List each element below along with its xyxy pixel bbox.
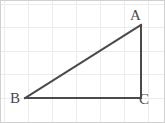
- figure-canvas: A B C: [0, 0, 165, 123]
- vertex-label-b: B: [10, 91, 20, 106]
- vertex-label-c: C: [139, 92, 149, 107]
- vertex-label-a: A: [130, 8, 141, 23]
